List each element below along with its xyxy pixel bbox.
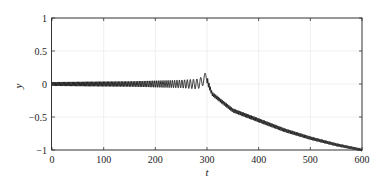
line-chart: 0100200300400500600 10.50−0.5−1 t y bbox=[0, 0, 381, 184]
x-tick-label: 100 bbox=[96, 154, 111, 165]
x-tick-label: 400 bbox=[251, 154, 266, 165]
y-tick-label: 0 bbox=[42, 79, 47, 90]
x-axis-label: t bbox=[205, 166, 209, 178]
x-tick-label: 200 bbox=[148, 154, 163, 165]
x-tick-label: 600 bbox=[355, 154, 370, 165]
y-tick-label: 1 bbox=[42, 13, 47, 24]
y-tick-label: −1 bbox=[36, 145, 47, 156]
y-axis-label: y bbox=[12, 83, 24, 89]
x-tick-labels: 0100200300400500600 bbox=[50, 154, 370, 165]
y-tick-labels: 10.50−0.5−1 bbox=[29, 13, 47, 156]
x-tick-label: 300 bbox=[200, 154, 215, 165]
y-tick-label: 0.5 bbox=[35, 46, 48, 57]
x-tick-label: 0 bbox=[50, 154, 55, 165]
y-tick-label: −0.5 bbox=[29, 112, 47, 123]
x-tick-label: 500 bbox=[303, 154, 318, 165]
